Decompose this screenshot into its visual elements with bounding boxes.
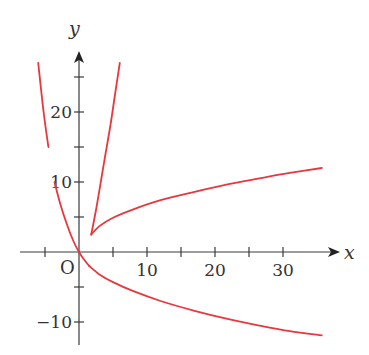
x-axis-label: x [344, 241, 355, 263]
y-tick-label: 20 [50, 102, 72, 122]
function-graph: 102030 2010−10 x y O [0, 0, 369, 355]
curves [38, 63, 322, 335]
x-tick-label: 20 [204, 260, 226, 280]
y-axis-tick-labels: 2010−10 [36, 102, 72, 332]
x-axis-tick-labels: 102030 [136, 260, 294, 280]
origin-label: O [60, 257, 75, 278]
upper-right-branch-curve [91, 168, 322, 235]
left-steep-branch-curve [38, 63, 48, 147]
y-axis-label: y [68, 17, 80, 39]
left-steep-branch-curve [55, 182, 90, 266]
y-tick-label: −10 [36, 312, 72, 332]
x-tick-label: 10 [136, 260, 158, 280]
upper-steep-branch-curve [91, 63, 120, 235]
x-tick-label: 30 [272, 260, 294, 280]
